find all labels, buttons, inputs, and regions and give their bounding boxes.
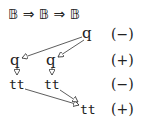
polarity-row-1: (−) <box>111 26 134 42</box>
polarity-row-3: (−) <box>111 76 134 92</box>
node-q-left: q <box>10 53 20 68</box>
polarity-row-4: (+) <box>111 101 134 117</box>
node-tt-left: tt <box>9 77 25 92</box>
node-q-middle: q <box>46 53 56 68</box>
node-q-root: q <box>82 26 92 41</box>
edge-n1-n3 <box>58 40 84 57</box>
polarity-row-2: (+) <box>111 52 134 68</box>
type-expression: 𝔹 ⇒ 𝔹 ⇒ 𝔹 <box>8 7 80 22</box>
node-tt-result: tt <box>80 102 96 117</box>
node-tt-middle: tt <box>44 77 60 92</box>
